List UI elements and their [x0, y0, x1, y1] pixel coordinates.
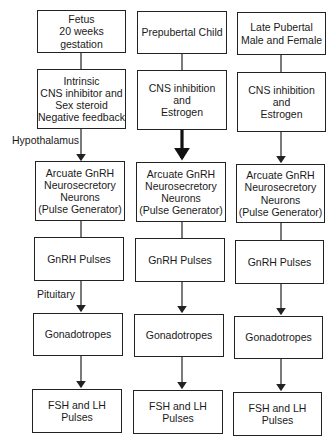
- box-late-pubertal-gnrh-pulses: GnRH Pulses: [235, 240, 324, 284]
- box-fetus-gonadotropes: Gonadotropes: [33, 313, 123, 356]
- box-late-pubertal-arcuate-gnrh: Arcuate GnRH Neurosecretory Neurons (Pul…: [236, 164, 325, 223]
- box-prepubertal-fsh-lh: FSH and LH Pulses: [133, 390, 223, 434]
- label-hypothalamus: Hypothalamus: [12, 134, 79, 146]
- box-late-pubertal-stage: Late Pubertal Male and Female: [237, 12, 326, 55]
- box-late-pubertal-regulation: CNS inhibition and Estrogen: [237, 72, 326, 132]
- box-fetus-fsh-lh: FSH and LH Pulses: [32, 389, 122, 433]
- box-fetus-arcuate-gnrh: Arcuate GnRH Neurosecretory Neurons (Pul…: [35, 161, 125, 221]
- box-prepubertal-arcuate-gnrh: Arcuate GnRH Neurosecretory Neurons (Pul…: [136, 162, 226, 222]
- box-prepubertal-stage: Prepubertal Child: [137, 11, 227, 54]
- label-pituitary: Pituitary: [37, 288, 75, 300]
- box-prepubertal-regulation: CNS inhibition and Estrogen: [137, 70, 227, 130]
- box-fetus-regulation: Intrinsic CNS inhibitor and Sex steroid …: [37, 69, 126, 129]
- box-late-pubertal-gonadotropes: Gonadotropes: [234, 316, 323, 359]
- box-late-pubertal-fsh-lh: FSH and LH Pulses: [233, 392, 322, 436]
- box-fetus-gnrh-pulses: GnRH Pulses: [34, 237, 124, 281]
- box-prepubertal-gonadotropes: Gonadotropes: [134, 314, 224, 357]
- box-fetus-stage: Fetus 20 weeks gestation: [37, 10, 126, 53]
- box-prepubertal-gnrh-pulses: GnRH Pulses: [135, 238, 225, 282]
